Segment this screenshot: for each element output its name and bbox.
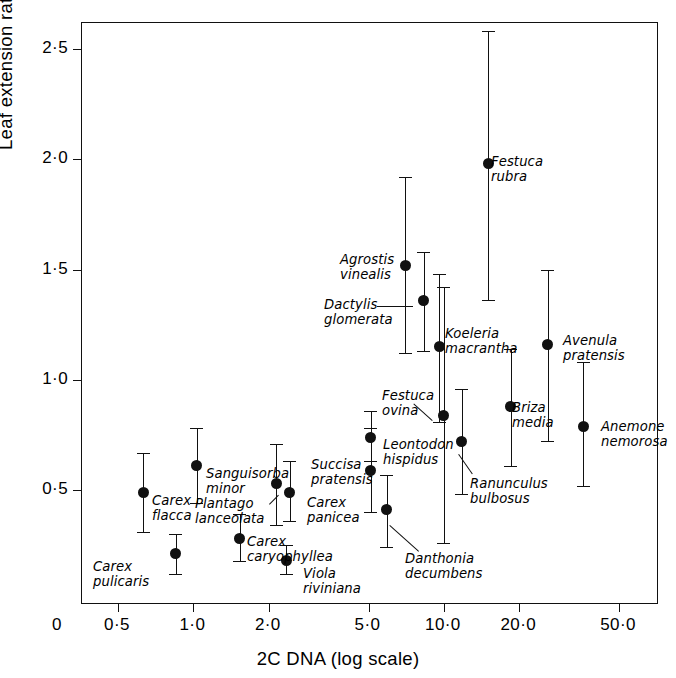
species-label: Briza media (512, 401, 554, 430)
data-point[interactable] (418, 295, 429, 306)
y-tick-label: 0·5 (8, 479, 68, 499)
species-label: Carex caryophyllea (247, 535, 333, 564)
label-leader-line (458, 454, 473, 475)
species-label: Avenula pratensis (563, 334, 625, 363)
data-point[interactable] (438, 410, 449, 421)
error-bar-cap (437, 543, 450, 544)
x-tick (619, 603, 620, 612)
y-tick-label: 1·0 (8, 369, 68, 389)
error-bar-cap (190, 428, 203, 429)
species-label: Festuca rubra (491, 155, 543, 184)
y-axis-title-text: Leaf extension rate (mm day (0, 0, 16, 150)
label-leader-line (269, 495, 279, 505)
species-label: Plantago lanceolata (195, 497, 265, 526)
x-tick-label: 0·5 (82, 615, 152, 635)
error-bar-cap (380, 547, 393, 548)
label-leader-line (377, 306, 413, 307)
error-bar-cap (455, 494, 468, 495)
species-label: Koeleria macrantha (445, 327, 518, 356)
species-label: Ranunculus bulbosus (470, 477, 548, 506)
error-bar-cap (169, 534, 182, 535)
data-point[interactable] (138, 487, 149, 498)
error-bar-cap (364, 411, 377, 412)
x-tick (269, 603, 270, 612)
y-tick (73, 49, 82, 50)
data-point[interactable] (456, 436, 467, 447)
species-label: Viola riviniana (303, 567, 361, 596)
error-bar-cap (169, 574, 182, 575)
species-label: Danthonia decumbens (405, 552, 483, 581)
data-point[interactable] (191, 460, 202, 471)
error-bar-cap (482, 300, 495, 301)
data-point[interactable] (381, 504, 392, 515)
data-point[interactable] (170, 548, 181, 559)
data-point[interactable] (234, 533, 245, 544)
species-label: Carex flacca (152, 494, 192, 523)
x-tick (118, 603, 119, 612)
error-bar-cap (433, 274, 446, 275)
figure-scatter-plot: Carex flaccaCarex pulicarisSanguisorba m… (0, 0, 676, 678)
error-bar-cap (283, 521, 296, 522)
species-label: Anemone nemorosa (601, 420, 668, 449)
species-label: Carex pulicaris (93, 560, 149, 589)
x-tick (369, 603, 370, 612)
plot-frame: Carex flaccaCarex pulicarisSanguisorba m… (81, 22, 658, 604)
error-bar-cap (283, 461, 296, 462)
error-bar-cap (270, 444, 283, 445)
error-bar-cap (417, 351, 430, 352)
error-bar-cap (270, 525, 283, 526)
y-tick (73, 159, 82, 160)
x-tick (444, 603, 445, 612)
label-leader-line (389, 525, 419, 552)
x-tick (519, 603, 520, 612)
x-tick (193, 603, 194, 612)
error-bar-cap (399, 353, 412, 354)
error-bar-cap (577, 486, 590, 487)
x-tick-label: 2·0 (233, 615, 303, 635)
error-bar-cap (541, 441, 554, 442)
error-bar-cap (137, 532, 150, 533)
x-tick-label: 10·0 (408, 615, 478, 635)
x-tick-label: 50·0 (583, 615, 653, 635)
error-bar-cap (280, 574, 293, 575)
species-label: Dactylis glomerata (324, 298, 393, 327)
error-bar-cap (417, 252, 430, 253)
y-tick (73, 270, 82, 271)
species-label: Succisa pratensis (311, 458, 373, 487)
error-bar-cap (399, 177, 412, 178)
y-tick-label: 1·5 (8, 259, 68, 279)
species-label: Agrostis vinealis (340, 253, 394, 282)
error-bar-cap (364, 512, 377, 513)
data-point[interactable] (400, 260, 411, 271)
error-bar-cap (482, 31, 495, 32)
error-bar-cap (233, 561, 246, 562)
species-label: Leontodon hispidus (383, 438, 454, 467)
x-tick-label: 20·0 (483, 615, 553, 635)
error-bar-cap (137, 453, 150, 454)
error-bar-cap (504, 466, 517, 467)
error-bar-cap (455, 389, 468, 390)
y-axis-title: Leaf extension rate (mm day−1) (0, 0, 17, 150)
y-tick (73, 490, 82, 491)
x-tick-label: 5·0 (333, 615, 403, 635)
error-bar-cap (437, 287, 450, 288)
error-bar-cap (541, 270, 554, 271)
y-tick (73, 380, 82, 381)
error-bar-cap (380, 475, 393, 476)
y-tick-label: 2·0 (8, 148, 68, 168)
x-tick-label: 1·0 (157, 615, 227, 635)
species-label: Sanguisorba minor (206, 467, 289, 496)
data-point[interactable] (365, 432, 376, 443)
x-axis-title: 2C DNA (log scale) (0, 648, 676, 670)
species-label: Carex panicea (307, 496, 360, 525)
data-point[interactable] (542, 339, 553, 350)
data-point[interactable] (578, 421, 589, 432)
